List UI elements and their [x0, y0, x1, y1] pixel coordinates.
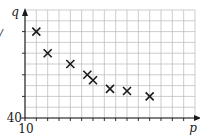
y-axis-arrow-icon — [22, 8, 28, 16]
cropped-edge-glyph: / — [0, 27, 4, 40]
scatter-chart: q p 40 10 / — [0, 0, 200, 135]
y-axis-label: q — [11, 5, 19, 19]
grid — [25, 10, 195, 118]
x-axis-label: p — [189, 121, 197, 135]
x-origin-label: 10 — [18, 122, 33, 135]
data-point-marker — [106, 85, 114, 93]
